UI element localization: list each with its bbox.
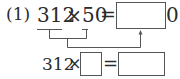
equals-sign-line2: =: [103, 55, 118, 73]
answer-box-bottom[interactable]: [118, 52, 165, 76]
arrow-up-icon: [139, 30, 143, 35]
bracket: [50, 30, 87, 39]
arrow-path: [68, 33, 141, 48]
multiplier-box[interactable]: [80, 52, 102, 76]
